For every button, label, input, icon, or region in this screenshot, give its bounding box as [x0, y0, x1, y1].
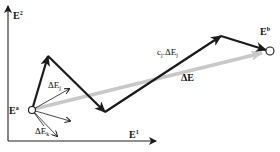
- start-point-marker: [29, 107, 36, 114]
- axes: [8, 6, 156, 141]
- x-axis-label: E1: [129, 129, 139, 140]
- step-vector-label: cj.ΔEj: [157, 48, 178, 58]
- total-vector-arrow: [34, 53, 262, 109]
- delta-ek-label: ΔEk: [35, 127, 49, 137]
- end-point-marker: [266, 47, 274, 55]
- end-point-label: Eb: [260, 26, 270, 37]
- start-point-label: Ea: [9, 105, 19, 116]
- y-axis-label: E2: [13, 10, 23, 21]
- delta-ej-label: ΔEj: [48, 81, 61, 91]
- step-4-arrow: [221, 36, 266, 50]
- total-vector-label: ΔE: [181, 73, 194, 83]
